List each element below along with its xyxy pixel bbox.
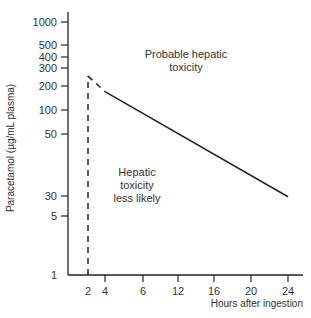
- x-axis-label: Hours after ingestion: [211, 298, 303, 309]
- y-tick-label: 1: [51, 269, 57, 281]
- x-tick-label: 24: [282, 285, 294, 297]
- y-tick-label: 5: [51, 210, 57, 222]
- x-tick-label: 4: [102, 285, 108, 297]
- annotation-line: less likely: [113, 192, 161, 204]
- y-ticks: 1000500400300200100503051: [33, 16, 68, 281]
- annotation-line: Probable hepatic: [145, 48, 228, 60]
- chart: 1000500400300200100503051 24612162024 Pa…: [0, 0, 311, 318]
- y-tick-label: 300: [39, 62, 57, 74]
- annotation-probable-toxicity: Probable hepatic toxicity: [145, 48, 228, 73]
- annotation-less-likely: Hepatic toxicity less likely: [113, 166, 161, 204]
- y-tick-label: 1000: [33, 16, 57, 28]
- x-tick-label: 20: [245, 285, 257, 297]
- x-ticks: 24612162024: [85, 275, 294, 297]
- x-tick-label: 6: [140, 285, 146, 297]
- x-tick-label: 16: [208, 285, 220, 297]
- y-tick-label: 50: [45, 128, 57, 140]
- y-tick-label: 30: [45, 190, 57, 202]
- series-treatment-line-extension: [88, 76, 105, 92]
- x-tick-label: 12: [172, 285, 184, 297]
- annotation-line: Hepatic: [118, 166, 156, 178]
- annotation-line: toxicity: [169, 61, 203, 73]
- y-tick-label: 100: [39, 104, 57, 116]
- x-tick-label: 2: [85, 285, 91, 297]
- y-tick-label: 200: [39, 80, 57, 92]
- annotation-line: toxicity: [120, 179, 154, 191]
- y-tick-label: 500: [39, 39, 57, 51]
- y-axis-label: Paracetamol (µg/mL plasma): [5, 84, 16, 212]
